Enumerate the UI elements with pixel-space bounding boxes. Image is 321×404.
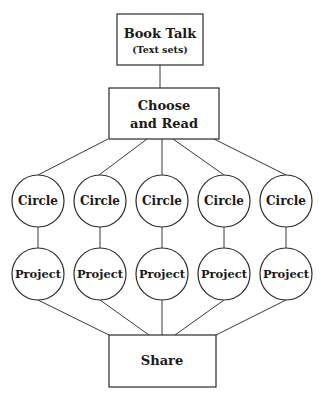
circle-label: Circle [80, 194, 120, 208]
choose-line-2: and Read [130, 116, 198, 131]
node-project-4: Project [198, 248, 250, 300]
edge-choose-circle-1 [38, 139, 108, 175]
book-talk-title: Book Talk [124, 26, 198, 41]
node-circle-1: Circle [12, 175, 64, 227]
circle-label: Circle [204, 194, 244, 208]
edge-choose-circle-5 [214, 139, 286, 175]
node-project-1: Project [12, 248, 64, 300]
project-label: Project [77, 267, 124, 281]
choose-line-1: Choose [138, 98, 191, 113]
flowchart: Book Talk (Text sets) Choose and Read Ci… [0, 0, 321, 404]
edge-project-share-5 [216, 300, 286, 335]
edge-choose-circle-2 [99, 139, 147, 175]
project-label: Project [263, 267, 310, 281]
book-talk-subtitle: (Text sets) [132, 44, 188, 55]
node-choose-and-read: Choose and Read [109, 88, 219, 139]
circle-label: Circle [18, 194, 58, 208]
circle-label: Circle [266, 194, 306, 208]
project-label: Project [139, 267, 186, 281]
share-label: Share [141, 353, 183, 368]
project-label: Project [201, 267, 248, 281]
node-circle-2: Circle [74, 175, 126, 227]
circle-label: Circle [142, 194, 182, 208]
edge-project-share-2 [100, 300, 149, 335]
node-circle-5: Circle [260, 175, 312, 227]
node-project-5: Project [260, 248, 312, 300]
node-book-talk: Book Talk (Text sets) [117, 14, 203, 65]
node-project-3: Project [136, 248, 188, 300]
edge-project-share-4 [175, 300, 224, 335]
circle-nodes: Circle Circle Circle Circle Circle [12, 175, 312, 227]
node-circle-4: Circle [198, 175, 250, 227]
project-nodes: Project Project Project Project Project [12, 248, 312, 300]
project-label: Project [15, 267, 62, 281]
node-share: Share [109, 335, 216, 387]
edge-choose-circle-4 [173, 139, 224, 175]
edge-project-share-1 [38, 300, 109, 335]
node-circle-3: Circle [136, 175, 188, 227]
node-project-2: Project [74, 248, 126, 300]
